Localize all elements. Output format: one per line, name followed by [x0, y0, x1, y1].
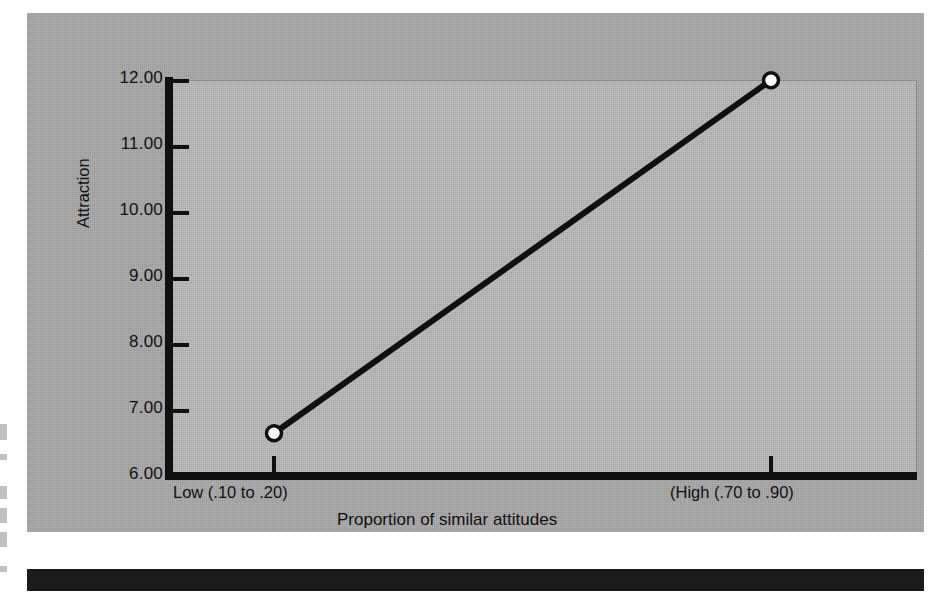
y-tick-mark-9 [173, 277, 189, 281]
y-tick-label: 12.00 [91, 68, 163, 88]
y-tick-label: 10.00 [91, 200, 163, 220]
y-axis-line [165, 77, 173, 480]
plot-area [172, 80, 917, 476]
bottom-horizontal-rule [27, 569, 924, 591]
page-edge-fragment [0, 486, 7, 499]
y-axis-title: Attraction [74, 158, 93, 228]
page-edge-fragment [0, 566, 7, 572]
y-tick-label: 7.00 [91, 398, 163, 418]
y-tick-mark-12 [173, 79, 189, 83]
page-edge-fragment [0, 454, 7, 460]
y-tick-label: 9.00 [91, 266, 163, 286]
page-edge-fragment [0, 424, 7, 440]
y-tick-mark-7 [173, 409, 189, 413]
y-tick-mark-8 [173, 343, 189, 347]
page-edge-fragment [0, 508, 7, 523]
x-axis-title: Proportion of similar attitudes [337, 510, 557, 530]
y-tick-label: 6.00 [91, 464, 163, 484]
y-tick-mark-11 [173, 145, 189, 149]
x-tick-label-high: (High (.70 to .90) [670, 483, 794, 502]
x-tick-mark-high [769, 456, 773, 474]
y-tick-label: 8.00 [91, 332, 163, 352]
page-edge-fragment [0, 532, 7, 547]
page-scan-background: 12.00 11.00 10.00 9.00 8.00 7.00 6.00 Lo… [0, 0, 948, 602]
y-tick-label-group: 12.00 11.00 10.00 9.00 8.00 7.00 6.00 [85, 13, 163, 532]
x-tick-mark-low [272, 456, 276, 474]
x-tick-label-low: Low (.10 to .20) [173, 483, 288, 502]
x-axis-line [165, 472, 917, 480]
y-tick-label: 11.00 [91, 134, 163, 154]
y-tick-mark-10 [173, 211, 189, 215]
figure-panel: 12.00 11.00 10.00 9.00 8.00 7.00 6.00 Lo… [27, 13, 924, 532]
